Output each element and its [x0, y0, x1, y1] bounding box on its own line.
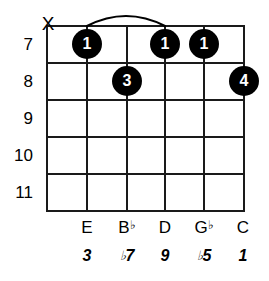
finger-dot-string3-fret8[interactable]: 3	[112, 66, 142, 96]
interval-number: 3	[83, 247, 92, 264]
fret-number-7: 7	[0, 36, 33, 53]
interval-number: 9	[161, 247, 170, 264]
fret-line-2	[46, 99, 245, 101]
finger-number: 1	[161, 36, 170, 52]
finger-number: 1	[200, 36, 209, 52]
fret-line-1	[46, 62, 245, 64]
note-letter: G	[194, 218, 207, 237]
note-label-string6: C	[213, 219, 269, 236]
finger-dot-string6-fret8[interactable]: 4	[229, 66, 259, 96]
fret-number-10: 10	[0, 147, 33, 164]
fret-line-4	[46, 173, 245, 175]
finger-dot-string4-fret7[interactable]: 1	[150, 29, 180, 59]
note-letter: C	[237, 218, 249, 237]
finger-dot-string2-fret7[interactable]: 1	[72, 29, 102, 59]
finger-dot-string5-fret7[interactable]: 1	[189, 29, 219, 59]
finger-number: 3	[123, 73, 132, 89]
interval-number: 7	[126, 247, 135, 264]
string-line-1	[46, 25, 48, 212]
string-line-3	[126, 25, 128, 212]
interval-label-string6: 1	[213, 248, 269, 264]
finger-number: 1	[83, 36, 92, 52]
string-line-6	[243, 25, 245, 212]
fretboard-top-line	[46, 25, 245, 27]
fret-number-9: 9	[0, 110, 33, 127]
fret-number-11: 11	[0, 184, 33, 201]
guitar-chord-diagram: 7 8 9 10 11 X 1 1 1 3 4 E B♭ D G	[0, 0, 269, 281]
interval-number: 1	[239, 247, 248, 264]
fret-line-3	[46, 136, 245, 138]
barre-arc	[0, 0, 269, 281]
fret-line-5	[46, 210, 245, 212]
fret-number-8: 8	[0, 73, 33, 90]
note-letter: D	[159, 218, 171, 237]
finger-number: 4	[240, 73, 249, 89]
note-letter: E	[81, 218, 92, 237]
interval-number: 5	[203, 247, 212, 264]
muted-string-marker-1: X	[42, 14, 55, 33]
note-letter: B	[118, 218, 129, 237]
